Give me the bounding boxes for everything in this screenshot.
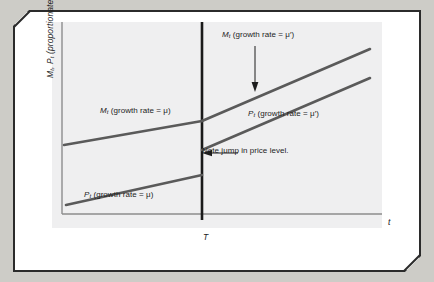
- y-axis-label: Mt, Pt (proportionate scale): [45, 0, 55, 78]
- figure-container: Mt, Pt (proportionate scale) Mt (growth …: [0, 0, 434, 282]
- plot-area: Mt, Pt (proportionate scale) Mt (growth …: [52, 22, 382, 228]
- series-line-m-old: [64, 121, 202, 145]
- annotation-m-old: Mt (growth rate = μ): [100, 106, 171, 115]
- m-new-arrow-icon: [252, 46, 259, 92]
- annotation-p-old: Pt (growth rate = μ): [84, 190, 153, 199]
- annotation-p-new: Pt (growth rate = μ′): [248, 109, 319, 118]
- annotation-m-new: Mt (growth rate = μ′): [222, 30, 294, 39]
- x-axis-label: t: [388, 217, 390, 227]
- annotation-price-jump-note: Note jump in price level.: [202, 146, 289, 155]
- x-tick-label-T: T: [203, 232, 208, 242]
